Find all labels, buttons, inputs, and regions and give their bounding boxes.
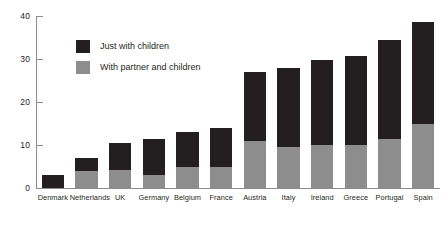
stacked-bar-chart: 010203040 DenmarkNetherlandsUKGermanyBel… [0,0,445,225]
bar-segment-just-with-children [311,60,334,145]
legend-label-with-partner-and-children: With partner and children [100,61,201,74]
x-axis-label: Portugal [373,193,407,202]
y-axis-tick-label: 30 [0,55,30,64]
bar-segment-with-partner-and-children [210,167,233,189]
bar-segment-with-partner-and-children [412,124,435,188]
x-axis-label: Germany [137,193,171,202]
bar-group [210,16,233,188]
x-axis-label: Greece [339,193,373,202]
bar-segment-just-with-children [345,56,368,145]
bar-group [244,16,267,188]
bar-group [345,16,368,188]
plot-area [36,16,440,188]
bar-segment-with-partner-and-children [277,147,300,188]
bar-group [311,16,334,188]
bar-segment-just-with-children [75,158,98,171]
bar-segment-just-with-children [176,132,199,166]
x-axis-label: France [204,193,238,202]
bar-segment-just-with-children [42,175,65,188]
x-axis-label: Belgium [171,193,205,202]
bar-segment-with-partner-and-children [345,145,368,188]
bar-segment-with-partner-and-children [311,145,334,188]
bar-segment-with-partner-and-children [378,139,401,188]
x-axis-label: UK [103,193,137,202]
bar-group [378,16,401,188]
x-axis-label: Spain [406,193,440,202]
bar-group [42,16,65,188]
bar-segment-with-partner-and-children [109,170,132,188]
y-axis-tick-label: 10 [0,141,30,150]
bar-segment-just-with-children [378,40,401,139]
bar-segment-with-partner-and-children [75,171,98,188]
bar-segment-just-with-children [277,68,300,148]
x-axis-label: Denmark [36,193,70,202]
legend-label-just-with-children: Just with children [100,40,169,53]
y-axis-tick-label: 40 [0,12,30,21]
y-axis-tick-label: 20 [0,98,30,107]
x-axis-label: Ireland [305,193,339,202]
x-axis-line [36,188,440,189]
bar-segment-with-partner-and-children [244,141,267,188]
bar-segment-just-with-children [210,128,233,167]
bar-segment-just-with-children [244,72,267,141]
bar-segment-just-with-children [412,22,435,124]
x-axis-label: Netherlands [70,193,104,202]
legend-swatch-black [76,40,90,53]
x-axis-label: Italy [272,193,306,202]
bar-segment-just-with-children [143,139,166,176]
legend-swatch-gray [76,61,90,74]
y-axis-tick-label: 0 [0,184,30,193]
x-axis-label: Austria [238,193,272,202]
bar-group [277,16,300,188]
bar-group [176,16,199,188]
bar-segment-with-partner-and-children [143,175,166,188]
bar-group [412,16,435,188]
bar-segment-with-partner-and-children [176,167,199,189]
bar-segment-just-with-children [109,143,132,170]
